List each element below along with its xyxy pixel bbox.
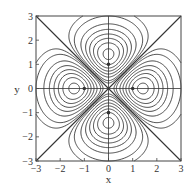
contour-plot: −3−2−10123 −3−2−10123 x y xyxy=(0,0,191,187)
x-axis-ticks: −3−2−10123 xyxy=(31,158,184,174)
x-axis-label: x xyxy=(106,173,112,185)
x-tick-label: −2 xyxy=(55,163,66,174)
extremum-dot xyxy=(83,87,87,91)
y-tick-label: −1 xyxy=(22,107,33,118)
y-tick-label: 2 xyxy=(28,35,33,46)
extremum-dot xyxy=(131,87,135,91)
y-tick-label: 1 xyxy=(28,59,33,70)
extremum-dot xyxy=(107,63,111,67)
x-tick-label: −1 xyxy=(79,163,90,174)
y-tick-label: 0 xyxy=(28,83,33,94)
extremum-dot xyxy=(107,111,111,115)
y-axis-ticks: −3−2−10123 xyxy=(22,11,39,167)
reference-lines xyxy=(36,16,181,161)
x-tick-label: 1 xyxy=(130,163,135,174)
y-tick-label: −2 xyxy=(22,131,33,142)
y-tick-label: −3 xyxy=(22,156,33,167)
y-tick-label: 3 xyxy=(28,11,33,22)
x-tick-label: 2 xyxy=(154,163,159,174)
x-tick-label: 3 xyxy=(179,163,184,174)
y-axis-label: y xyxy=(14,83,20,95)
